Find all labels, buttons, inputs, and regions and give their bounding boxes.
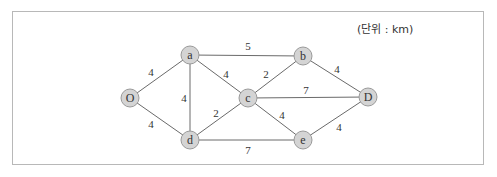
node-label: b [300,49,306,63]
node-b: b [294,47,312,65]
edge-weight-c-d: 2 [213,107,219,119]
edge-c-d [190,98,248,140]
node-label: D [364,90,373,104]
edge-weight-c-e: 4 [279,109,285,121]
edge-weight-b-D: 4 [334,63,340,75]
edge-weight-a-d: 4 [181,92,187,104]
edge-a-b [190,55,303,56]
edge-c-D [248,97,368,98]
edge-weight-a-b: 5 [245,40,251,52]
edge-b-c [248,56,303,98]
edge-a-c [190,55,248,98]
edge-weight-b-c: 2 [263,68,269,80]
node-label: a [187,48,193,62]
edge-weight-c-D: 7 [303,84,309,96]
edge-weight-e-D: 4 [336,121,342,133]
edge-O-d [130,98,190,140]
edge-c-e [248,98,303,140]
node-c: c [239,89,257,107]
node-label: c [245,91,250,105]
edge-weight-O-d: 4 [148,118,154,130]
node-label: e [300,133,305,147]
edge-weight-O-a: 4 [148,66,154,78]
edge-e-D [303,97,368,140]
node-label: O [126,91,135,105]
network-graph: 445442472474OabcdeD [0,0,497,177]
node-a: a [181,46,199,64]
node-e: e [294,131,312,149]
node-D: D [359,88,377,106]
node-d: d [181,131,199,149]
edge-weight-d-e: 7 [245,144,251,156]
edge-weight-a-c: 4 [223,68,229,80]
node-O: O [121,89,139,107]
node-label: d [187,133,193,147]
